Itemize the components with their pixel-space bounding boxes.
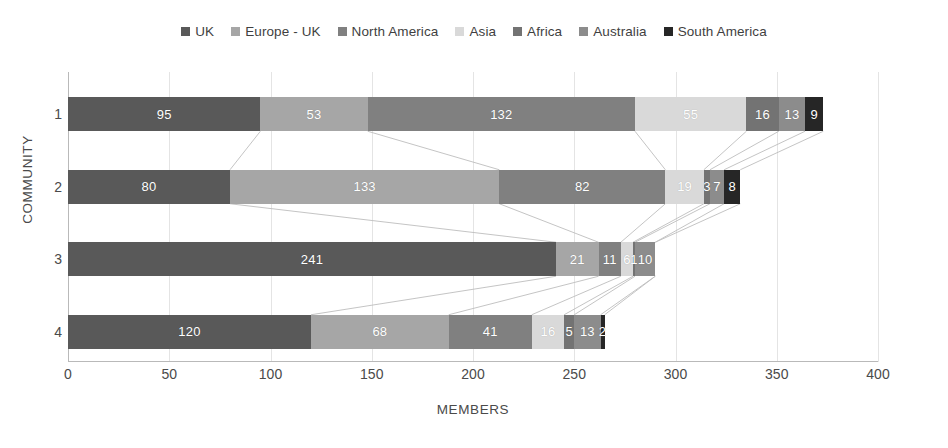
bar-segment-value-label: 3 — [703, 179, 710, 194]
bar-row[interactable]: 1206841165132 — [68, 315, 605, 349]
x-axis-tick-label: 150 — [360, 366, 383, 382]
x-axis-tick-labels: 050100150200250300350400 — [68, 366, 878, 386]
bar-segment-value-label: 16 — [540, 324, 555, 339]
bar-segment-value-label: 10 — [638, 252, 653, 267]
bar-segment[interactable]: 241 — [68, 242, 556, 276]
bar-segment-value-label: 11 — [603, 252, 617, 267]
bar-segment[interactable]: 7 — [710, 170, 724, 204]
bar-segment-value-label: 53 — [307, 107, 322, 122]
y-axis-tick-label: 3 — [54, 251, 62, 267]
bar-segment-value-label: 41 — [483, 324, 498, 339]
bar-segment-value-label: 21 — [570, 252, 585, 267]
bar-segment[interactable]: 53 — [260, 97, 367, 131]
bar-segment[interactable]: 5 — [564, 315, 574, 349]
legend-item[interactable]: Africa — [513, 24, 562, 39]
bar-segment[interactable]: 13 — [779, 97, 805, 131]
gridline — [878, 72, 879, 362]
bar-segment-value-label: 95 — [157, 107, 172, 122]
bar-row[interactable]: 801338219378 — [68, 170, 740, 204]
legend-swatch-icon — [338, 27, 347, 36]
bar-segment[interactable]: 16 — [532, 315, 564, 349]
plot-area: 9553132551613980133821937824121116110120… — [68, 72, 878, 362]
bar-segment-value-label: 132 — [490, 107, 512, 122]
legend-item-label: Europe - UK — [245, 24, 320, 39]
bar-segment-value-label: 13 — [784, 107, 799, 122]
bar-segment-value-label: 1 — [630, 252, 637, 267]
bar-segment-value-label: 133 — [354, 179, 376, 194]
y-axis-tick-label: 2 — [54, 179, 62, 195]
bar-segment-value-label: 9 — [810, 107, 817, 122]
legend-item[interactable]: North America — [338, 24, 439, 39]
bar-segment[interactable]: 19 — [665, 170, 703, 204]
bar-segment-value-label: 13 — [580, 324, 595, 339]
legend-item[interactable]: Europe - UK — [231, 24, 320, 39]
bar-segment-value-label: 5 — [565, 324, 572, 339]
legend-swatch-icon — [455, 27, 464, 36]
legend-item-label: Africa — [527, 24, 562, 39]
legend-swatch-icon — [513, 27, 522, 36]
bar-segment[interactable]: 11 — [599, 242, 621, 276]
bar-segment-value-label: 68 — [372, 324, 387, 339]
bar-segment[interactable]: 68 — [311, 315, 449, 349]
bar-segment-value-label: 7 — [713, 179, 720, 194]
legend-swatch-icon — [231, 27, 240, 36]
x-axis-tick-label: 50 — [161, 366, 177, 382]
bar-segment[interactable]: 9 — [805, 97, 823, 131]
legend-item-label: UK — [195, 24, 214, 39]
x-axis-tick-label: 100 — [259, 366, 282, 382]
legend-swatch-icon — [664, 27, 673, 36]
y-axis-tick-label: 4 — [54, 324, 62, 340]
legend-swatch-icon — [579, 27, 588, 36]
bar-segment[interactable]: 8 — [724, 170, 740, 204]
x-axis-tick-label: 350 — [765, 366, 788, 382]
bar-segment[interactable]: 41 — [449, 315, 532, 349]
bar-segment[interactable]: 10 — [635, 242, 655, 276]
bar-segment[interactable]: 95 — [68, 97, 260, 131]
legend-item-label: South America — [678, 24, 767, 39]
bar-segment-value-label: 120 — [178, 324, 200, 339]
bar-segment[interactable]: 120 — [68, 315, 311, 349]
chart-legend: UKEurope - UKNorth AmericaAsiaAfricaAust… — [0, 24, 948, 39]
bar-segment[interactable]: 80 — [68, 170, 230, 204]
bar-segment-value-label: 16 — [755, 107, 770, 122]
bar-segment[interactable]: 2 — [601, 315, 605, 349]
bar-segment-value-label: 80 — [142, 179, 157, 194]
legend-item[interactable]: South America — [664, 24, 767, 39]
bar-segment[interactable]: 132 — [368, 97, 635, 131]
y-axis-tick-label: 1 — [54, 106, 62, 122]
bar-segment-value-label: 82 — [575, 179, 590, 194]
legend-item[interactable]: UK — [181, 24, 214, 39]
x-axis-tick-label: 0 — [64, 366, 72, 382]
bar-segment[interactable]: 82 — [499, 170, 665, 204]
bar-segment[interactable]: 13 — [574, 315, 600, 349]
bar-segment-value-label: 241 — [301, 252, 323, 267]
stacked-bar-chart: UKEurope - UKNorth AmericaAsiaAfricaAust… — [0, 0, 948, 448]
x-axis-tick-label: 400 — [866, 366, 889, 382]
legend-item-label: Asia — [469, 24, 496, 39]
bars-layer: 9553132551613980133821937824121116110120… — [68, 72, 878, 362]
legend-item-label: Australia — [593, 24, 646, 39]
bar-row[interactable]: 95531325516139 — [68, 97, 823, 131]
bar-segment[interactable]: 21 — [556, 242, 599, 276]
bar-segment-value-label: 8 — [728, 179, 735, 194]
x-axis-tick-label: 250 — [563, 366, 586, 382]
bar-row[interactable]: 24121116110 — [68, 242, 655, 276]
x-axis-tick-label: 200 — [461, 366, 484, 382]
legend-swatch-icon — [181, 27, 190, 36]
bar-segment-value-label: 2 — [599, 324, 606, 339]
bar-segment-value-label: 55 — [683, 107, 698, 122]
bar-segment[interactable]: 55 — [635, 97, 746, 131]
y-axis-title: COMMUNITY — [20, 110, 35, 250]
bar-segment[interactable]: 133 — [230, 170, 499, 204]
x-axis-title: MEMBERS — [68, 402, 878, 417]
y-axis-tick-labels: 1234 — [34, 72, 62, 362]
legend-item[interactable]: Asia — [455, 24, 496, 39]
legend-item[interactable]: Australia — [579, 24, 646, 39]
legend-item-label: North America — [352, 24, 439, 39]
bar-segment-value-label: 19 — [677, 179, 692, 194]
x-axis-tick-label: 300 — [664, 366, 687, 382]
bar-segment[interactable]: 16 — [746, 97, 778, 131]
